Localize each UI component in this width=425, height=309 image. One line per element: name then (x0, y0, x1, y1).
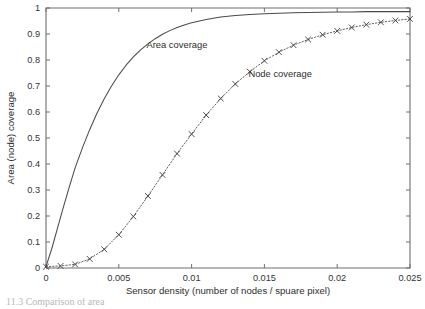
y-tick-label: 1 (35, 3, 40, 13)
series-annotation-2: Node coverage (248, 68, 312, 79)
data-point-marker (204, 113, 209, 118)
curves-group (46, 12, 410, 267)
markers-group (43, 16, 412, 269)
figure-caption: 11.3 Comparison of area (6, 298, 105, 307)
figure-caption-strip: 11.3 Comparison of area (0, 298, 425, 309)
y-axis-title: Area (node) coverage (5, 92, 16, 185)
x-tick-label: 0.01 (183, 273, 201, 283)
series-annotation-1: Area coverage (146, 39, 207, 50)
data-point-marker (87, 256, 92, 261)
series-line-2 (46, 19, 410, 267)
data-point-marker (276, 50, 281, 55)
x-tick-label: 0.02 (328, 273, 346, 283)
x-tick-label: 0.015 (253, 273, 276, 283)
x-axis-title: Sensor density (number of nodes / spuare… (126, 285, 330, 296)
y-tick-label: 0.5 (27, 133, 40, 143)
coverage-chart: 00.0050.010.0150.020.02500.10.20.30.40.5… (0, 0, 425, 309)
y-tick-label: 0.2 (27, 211, 40, 221)
y-tick-label: 0.6 (27, 107, 40, 117)
y-tick-label: 0.1 (27, 237, 40, 247)
data-point-marker (160, 172, 165, 177)
y-tick-label: 0.9 (27, 29, 40, 39)
data-point-marker (364, 22, 369, 27)
data-point-marker (145, 193, 150, 198)
data-point-marker (393, 18, 398, 23)
y-tick-label: 0.8 (27, 55, 40, 65)
y-tick-label: 0 (35, 263, 40, 273)
x-tick-label: 0 (43, 273, 48, 283)
data-point-marker (233, 81, 238, 86)
data-point-marker (305, 37, 310, 42)
data-point-marker (131, 214, 136, 219)
data-point-marker (116, 232, 121, 237)
data-point-marker (291, 43, 296, 48)
data-point-marker (335, 28, 340, 33)
data-point-marker (218, 96, 223, 101)
y-tick-label: 0.4 (27, 159, 40, 169)
x-tick-label: 0.025 (399, 273, 422, 283)
data-point-marker (262, 58, 267, 63)
plot-frame (46, 8, 410, 268)
x-tick-label: 0.005 (107, 273, 130, 283)
data-point-marker (174, 151, 179, 156)
figure-container: 00.0050.010.0150.020.02500.10.20.30.40.5… (0, 0, 425, 309)
y-tick-label: 0.3 (27, 185, 40, 195)
series-line-1 (46, 12, 410, 267)
axes-group (46, 8, 410, 268)
y-tick-label: 0.7 (27, 81, 40, 91)
data-point-marker (189, 132, 194, 137)
data-point-marker (102, 247, 107, 252)
labels-group: 00.0050.010.0150.020.02500.10.20.30.40.5… (5, 3, 422, 296)
